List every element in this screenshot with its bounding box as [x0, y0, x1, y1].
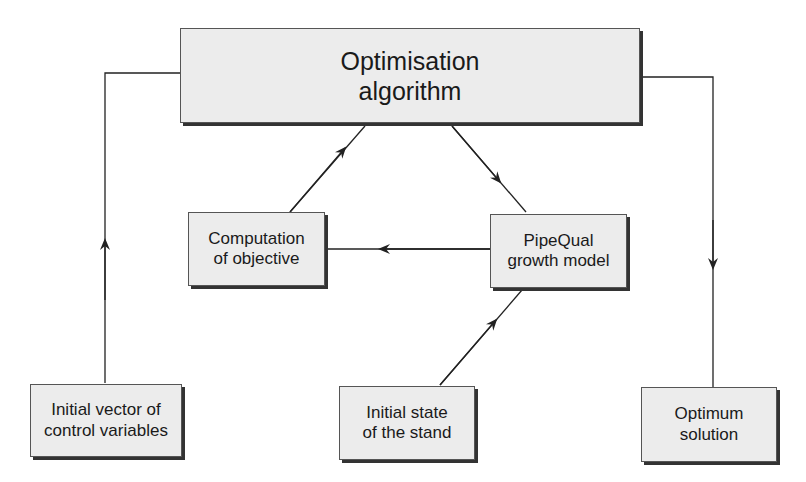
- initial-vector-label: Initial vector of control variables: [44, 400, 168, 441]
- pipequal-growth-model-label: PipeQual growth model: [507, 231, 609, 272]
- initial-state-box: Initial state of the stand: [339, 386, 475, 460]
- edge-optimisation-to-optimum: [640, 77, 713, 387]
- optimum-solution-label: Optimum solution: [675, 404, 744, 445]
- optimisation-algorithm-label: Optimisation algorithm: [341, 46, 480, 106]
- initial-vector-box: Initial vector of control variables: [30, 384, 182, 457]
- computation-of-objective-box: Computation of objective: [188, 212, 325, 286]
- pipequal-growth-model-box: PipeQual growth model: [490, 214, 627, 288]
- edge-initial-vector-to-optimisation: [105, 73, 180, 383]
- optimisation-algorithm-box: Optimisation algorithm: [180, 28, 640, 123]
- computation-of-objective-label: Computation of objective: [208, 229, 304, 270]
- optimum-solution-box: Optimum solution: [641, 387, 777, 462]
- initial-state-label: Initial state of the stand: [363, 403, 452, 444]
